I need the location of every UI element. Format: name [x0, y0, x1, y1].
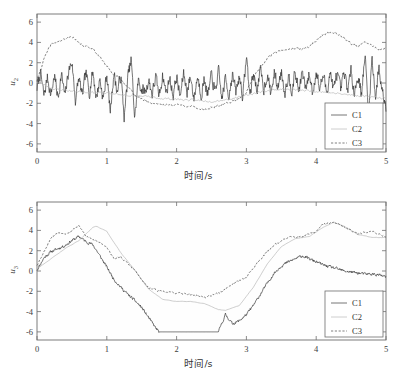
y-tick-label-bottom-2: -2: [26, 286, 33, 296]
legend-label-bottom-c1: C1: [352, 298, 362, 308]
figure-container: 012345-6-4-20246C1C2C3 u2 时间/s 012345-6-…: [0, 0, 397, 375]
x-tick-label-bottom-3: 3: [244, 344, 248, 354]
legend-label-bottom-c3: C3: [352, 326, 362, 336]
x-axis-label-top: 时间/s: [0, 168, 397, 182]
y-axis-label-bottom-text: u: [7, 269, 17, 274]
y-axis-label-bottom: u3: [7, 259, 19, 281]
y-tick-label-top-2: -2: [26, 98, 33, 108]
y-tick-label-bottom-1: -4: [26, 307, 34, 317]
plot-area-top: 012345-6-4-20246C1C2C3: [0, 0, 397, 187]
x-tick-label-top-4: 4: [314, 156, 319, 166]
x-tick-label-bottom-1: 1: [105, 344, 109, 354]
y-tick-label-bottom-3: 0: [29, 266, 33, 276]
x-tick-label-top-5: 5: [384, 156, 388, 166]
x-tick-label-top-0: 0: [35, 156, 39, 166]
y-tick-label-bottom-5: 4: [29, 225, 34, 235]
y-axis-label-top-sub: 2: [12, 78, 19, 81]
legend-label-top-c2: C2: [352, 124, 362, 134]
chart-panel-top: 012345-6-4-20246C1C2C3 u2 时间/s: [0, 0, 397, 187]
y-tick-label-top-4: 2: [29, 58, 33, 68]
legend-label-top-c1: C1: [352, 110, 362, 120]
legend-label-top-c3: C3: [352, 138, 362, 148]
x-tick-label-top-1: 1: [105, 156, 109, 166]
y-tick-label-bottom-0: -6: [26, 327, 33, 337]
y-tick-label-top-0: -6: [26, 139, 33, 149]
x-tick-label-bottom-5: 5: [384, 344, 388, 354]
y-axis-label-top-text: u: [7, 81, 17, 86]
x-tick-label-bottom-2: 2: [174, 344, 178, 354]
x-axis-label-bottom: 时间/s: [0, 356, 397, 370]
y-tick-label-top-5: 4: [29, 37, 34, 47]
chart-panel-bottom: 012345-6-4-20246C1C2C3 u3 时间/s: [0, 188, 397, 375]
y-tick-label-bottom-4: 2: [29, 246, 33, 256]
plot-area-bottom: 012345-6-4-20246C1C2C3: [0, 188, 397, 375]
y-axis-label-top: u2: [7, 71, 19, 93]
x-tick-label-bottom-4: 4: [314, 344, 319, 354]
y-tick-label-top-6: 6: [29, 17, 33, 27]
x-tick-label-bottom-0: 0: [35, 344, 39, 354]
legend-label-bottom-c2: C2: [352, 312, 362, 322]
y-axis-label-bottom-sub: 3: [12, 266, 19, 269]
y-tick-label-top-3: 0: [29, 78, 33, 88]
y-tick-label-bottom-6: 6: [29, 205, 33, 215]
y-tick-label-top-1: -4: [26, 119, 34, 129]
x-tick-label-top-3: 3: [244, 156, 248, 166]
x-tick-label-top-2: 2: [174, 156, 178, 166]
